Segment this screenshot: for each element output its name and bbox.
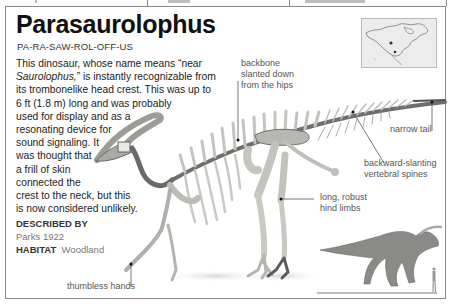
annotation-vertebral-spines: backward-slanting vertebral spines bbox=[364, 158, 437, 180]
annotation-thumbless-hands: thumbless hands bbox=[67, 281, 135, 292]
annotation-narrow-tail: narrow tail bbox=[390, 124, 432, 135]
annotation-hind-limbs: long, robust hind limbs bbox=[320, 192, 367, 214]
annotation-backbone: backbone slanted down from the hips bbox=[241, 58, 294, 91]
reconstruction-figure bbox=[317, 227, 442, 293]
human-scale-icon bbox=[432, 267, 435, 292]
skeleton-illustration bbox=[0, 0, 451, 306]
